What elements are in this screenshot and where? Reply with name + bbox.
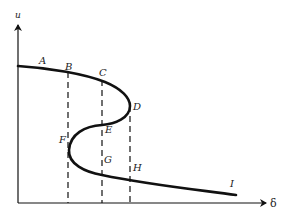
label-h: H [132,162,142,173]
label-f: F [58,134,67,145]
label-d: D [132,101,141,112]
x-axis-label: δ [270,197,277,210]
label-a: A [38,55,46,66]
label-e: E [104,124,113,135]
label-g: G [104,154,112,165]
label-i: I [229,178,235,189]
y-axis-label: u [15,10,21,20]
diagram-canvas: u δ A B C D E F G H I [0,0,291,220]
s-curve [18,66,236,195]
s-curve-diagram: u δ A B C D E F G H I [0,0,291,220]
label-c: C [99,67,107,78]
label-b: B [64,61,72,72]
